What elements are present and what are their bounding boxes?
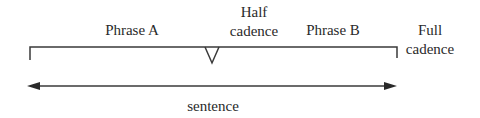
full-cadence-line2: cadence bbox=[406, 40, 454, 59]
sentence-span-arrow bbox=[27, 82, 397, 90]
half-cadence-marker-icon bbox=[205, 47, 219, 63]
half-cadence-label: Half cadence bbox=[230, 3, 278, 41]
arrow-right-icon bbox=[384, 82, 397, 90]
sentence-label: sentence bbox=[187, 97, 239, 116]
half-cadence-line2: cadence bbox=[230, 22, 278, 41]
half-cadence-line1: Half bbox=[230, 3, 278, 22]
phrase-a-label: Phrase A bbox=[105, 21, 159, 40]
full-cadence-line1: Full bbox=[406, 21, 454, 40]
phrase-b-label: Phrase B bbox=[306, 21, 360, 40]
full-cadence-label: Full cadence bbox=[406, 21, 454, 59]
arrow-left-icon bbox=[27, 82, 40, 90]
